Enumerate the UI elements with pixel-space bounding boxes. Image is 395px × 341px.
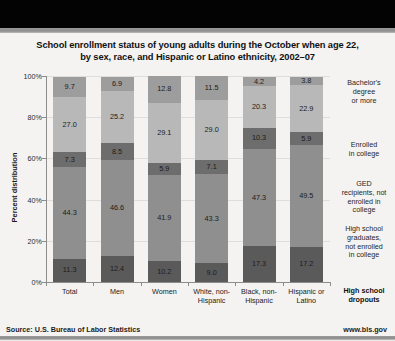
chart-title-line-2: by sex, race, and Hispanic or Latino eth… [14,51,381,63]
legend-item[interactable]: High schooldropouts [334,287,394,305]
y-axis-tick-label: 0% [8,278,42,287]
bar-segment[interactable]: 9.0 [195,263,228,282]
chart-card: School enrollment status of young adults… [0,33,395,325]
y-axis-tick-label: 40% [8,196,42,205]
bar-value-label: 17.2 [290,261,323,268]
chart-footer: Source: U.S. Bureau of Labor Statistics … [0,325,395,341]
bar-segment[interactable]: 11.5 [195,76,228,100]
bar-segment[interactable]: 5.9 [290,132,323,144]
bar-segment[interactable]: 17.2 [290,247,323,282]
bar-segment[interactable]: 7.1 [195,160,228,175]
bar-segment[interactable]: 6.9 [101,77,134,91]
bar-value-label: 3.8 [290,78,323,85]
bar-segment[interactable]: 10.3 [243,128,276,149]
website-url[interactable]: www.bls.gov [343,325,387,334]
bar-total[interactable]: 11.344.37.327.09.7 [53,76,86,282]
bar-segment[interactable]: 7.3 [53,152,86,167]
x-axis-tick-mark [141,282,142,286]
bar-value-label: 25.2 [101,113,134,120]
x-axis-label: Hispanic orLatino [277,288,335,305]
bar-segment[interactable]: 46.6 [101,160,134,256]
chart-title: School enrollment status of young adults… [14,39,381,64]
bar-segment[interactable]: 49.5 [290,145,323,247]
bar-segment[interactable]: 22.9 [290,85,323,132]
bar-segment[interactable]: 9.7 [53,77,86,97]
bar-segment[interactable]: 8.5 [101,143,134,161]
bar-value-label: 7.3 [53,156,86,163]
bar-value-label: 10.2 [148,268,181,275]
x-axis-tick-mark [235,282,236,286]
x-axis-tick-mark [330,282,331,286]
bar-segment[interactable]: 41.9 [148,175,181,261]
bar-value-label: 17.3 [243,261,276,268]
source-label: Source: U.S. Bureau of Labor Statistics [6,325,140,334]
legend-label-line-2: in college [334,150,394,159]
legend-label-line-4: in college [334,251,394,260]
bar-segment[interactable]: 5.9 [148,163,181,175]
x-axis-tick-mark [188,282,189,286]
bar-value-label: 49.5 [290,192,323,199]
bar-value-label: 7.1 [195,163,228,170]
top-black-band [0,0,395,28]
bar-value-label: 12.4 [101,266,134,273]
bar-segment[interactable]: 25.2 [101,91,134,143]
bar-segment[interactable]: 12.4 [101,256,134,282]
bar-value-label: 46.6 [101,205,134,212]
bar-value-label: 20.3 [243,103,276,110]
bar-segment[interactable]: 29.1 [148,103,181,163]
plot-area: 11.344.37.327.09.712.446.68.525.26.910.2… [46,76,330,282]
bar-value-label: 29.0 [195,126,228,133]
bar-value-label: 47.3 [243,194,276,201]
bar-segment[interactable]: 17.3 [243,246,276,282]
bar-segment[interactable]: 4.2 [243,77,276,86]
bar-value-label: 29.1 [148,129,181,136]
y-axis-title: Percent distribution [10,133,19,243]
bar-black-non-hispanic[interactable]: 17.347.310.320.34.2 [243,76,276,282]
bar-segment[interactable]: 20.3 [243,86,276,128]
bar-value-label: 22.9 [290,105,323,112]
bar-hispanic-or-latino[interactable]: 17.249.55.922.93.8 [290,76,323,282]
x-axis-tick-mark [46,282,47,286]
bar-segment[interactable]: 29.0 [195,100,228,160]
bar-segment[interactable]: 10.2 [148,261,181,282]
bar-value-label: 27.0 [53,121,86,128]
bar-value-label: 41.9 [148,214,181,221]
y-axis-tick-label: 20% [8,237,42,246]
bar-segment[interactable]: 3.8 [290,77,323,85]
y-axis-tick-label: 100% [8,72,42,81]
legend-item[interactable]: High schoolgraduates,not enrolledin coll… [334,225,394,260]
legend-label-line-2: dropouts [334,296,394,305]
bar-men[interactable]: 12.446.68.525.26.9 [101,76,134,282]
bar-value-label: 6.9 [101,80,134,87]
bar-value-label: 10.3 [243,135,276,142]
bar-value-label: 4.2 [243,78,276,85]
bar-white-non-hispanic[interactable]: 9.043.37.129.011.5 [195,76,228,282]
bar-value-label: 12.8 [148,86,181,93]
bar-women[interactable]: 10.241.95.929.112.8 [148,76,181,282]
legend-item[interactable]: Bachelor'sdegreeor more [334,79,394,105]
bar-value-label: 5.9 [290,135,323,142]
chart-page: School enrollment status of young adults… [0,0,395,341]
x-axis-tick-mark [93,282,94,286]
bar-segment[interactable]: 11.3 [53,259,86,282]
bar-segment[interactable]: 27.0 [53,97,86,153]
bar-value-label: 8.5 [101,148,134,155]
legend-item[interactable]: GEDrecipients, notenrolled incollege [334,180,394,215]
y-axis-tick-label: 60% [8,154,42,163]
x-axis-label-line-2: Latino [277,297,335,306]
bar-value-label: 9.0 [195,269,228,276]
legend-item[interactable]: Enrolledin college [334,141,394,159]
bar-value-label: 5.9 [148,165,181,172]
legend-label-line-4: college [334,206,394,215]
x-axis-tick-mark [283,282,284,286]
bar-value-label: 44.3 [53,209,86,216]
bar-segment[interactable]: 47.3 [243,149,276,246]
y-axis-tick-label: 80% [8,113,42,122]
bar-segment[interactable]: 44.3 [53,167,86,258]
bar-segment[interactable]: 43.3 [195,174,228,263]
bar-segment[interactable]: 12.8 [148,76,181,102]
legend-label-line-3: or more [334,97,394,106]
bar-value-label: 9.7 [53,83,86,90]
bar-value-label: 43.3 [195,215,228,222]
bar-value-label: 11.3 [53,267,86,274]
